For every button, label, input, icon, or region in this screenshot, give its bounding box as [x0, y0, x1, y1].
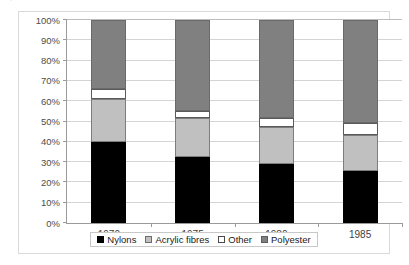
- legend-label: Other: [228, 235, 252, 245]
- bar-column[interactable]: [175, 20, 210, 223]
- x-axis-tick: [235, 223, 236, 227]
- y-axis-label: 20%: [41, 178, 60, 188]
- bar-column[interactable]: [343, 20, 378, 223]
- bar-segment[interactable]: [259, 164, 294, 223]
- y-axis-label: 90%: [41, 36, 60, 46]
- legend-label: Nylons: [107, 235, 136, 245]
- chart-legend: NylonsAcrylic fibresOtherPolyester: [19, 232, 389, 248]
- x-axis-tick: [402, 223, 403, 227]
- stacked-bar[interactable]: [175, 20, 210, 223]
- bar-segment[interactable]: [343, 135, 378, 172]
- y-axis-label: 0%: [46, 218, 60, 228]
- legend-swatch-icon: [145, 236, 152, 243]
- legend-item[interactable]: Other: [218, 235, 252, 245]
- bar-segment[interactable]: [91, 142, 126, 223]
- plot-area: 0%10%20%30%40%50%60%70%80%90%100% 197019…: [66, 20, 402, 224]
- bar-segment[interactable]: [259, 20, 294, 118]
- stacked-bar[interactable]: [343, 20, 378, 223]
- bar-segment[interactable]: [91, 89, 126, 99]
- y-axis-label: 10%: [41, 198, 60, 208]
- x-axis-tick: [151, 223, 152, 227]
- bar-segment[interactable]: [343, 20, 378, 123]
- bar-segment[interactable]: [343, 171, 378, 223]
- legend-swatch-icon: [97, 236, 104, 243]
- cropped-text-sliver: .: [0, 0, 409, 7]
- bar-column[interactable]: [91, 20, 126, 223]
- plot-wrapper: 0%10%20%30%40%50%60%70%80%90%100% 197019…: [66, 20, 402, 224]
- legend-swatch-icon: [261, 236, 268, 243]
- bar-segment[interactable]: [175, 20, 210, 111]
- legend-item[interactable]: Nylons: [97, 235, 136, 245]
- y-axis-label: 50%: [41, 117, 60, 127]
- bar-segment[interactable]: [91, 20, 126, 89]
- chart-frame: 0%10%20%30%40%50%60%70%80%90%100% 197019…: [18, 11, 390, 254]
- y-axis-tick: [63, 60, 67, 61]
- x-axis-tick: [318, 223, 319, 227]
- legend-item[interactable]: Acrylic fibres: [145, 235, 209, 245]
- legend-box: NylonsAcrylic fibresOtherPolyester: [90, 232, 317, 248]
- bar-segment[interactable]: [343, 123, 378, 135]
- bar-segment[interactable]: [91, 99, 126, 142]
- y-axis-label: 30%: [41, 157, 60, 167]
- stacked-bar[interactable]: [259, 20, 294, 223]
- y-axis-tick: [63, 202, 67, 203]
- y-axis-label: 40%: [41, 137, 60, 147]
- bar-segment[interactable]: [175, 118, 210, 157]
- bar-segment[interactable]: [259, 118, 294, 126]
- bar-segment[interactable]: [175, 111, 210, 118]
- legend-label: Polyester: [271, 235, 311, 245]
- y-axis-tick: [63, 222, 67, 223]
- y-axis-label: 100%: [36, 15, 60, 25]
- y-axis-tick: [63, 80, 67, 81]
- y-axis-label: 80%: [41, 56, 60, 66]
- y-axis-tick: [63, 19, 67, 20]
- legend-item[interactable]: Polyester: [261, 235, 311, 245]
- legend-swatch-icon: [218, 236, 225, 243]
- y-axis-label: 60%: [41, 96, 60, 106]
- y-axis-tick: [63, 39, 67, 40]
- legend-label: Acrylic fibres: [155, 235, 209, 245]
- y-axis-tick: [63, 181, 67, 182]
- y-axis-tick: [63, 100, 67, 101]
- y-axis-label: 70%: [41, 76, 60, 86]
- bar-segment[interactable]: [175, 157, 210, 223]
- stacked-bar[interactable]: [91, 20, 126, 223]
- bar-column[interactable]: [259, 20, 294, 223]
- y-axis-tick: [63, 141, 67, 142]
- bar-segment[interactable]: [259, 127, 294, 165]
- y-axis-tick: [63, 161, 67, 162]
- y-axis-tick: [63, 121, 67, 122]
